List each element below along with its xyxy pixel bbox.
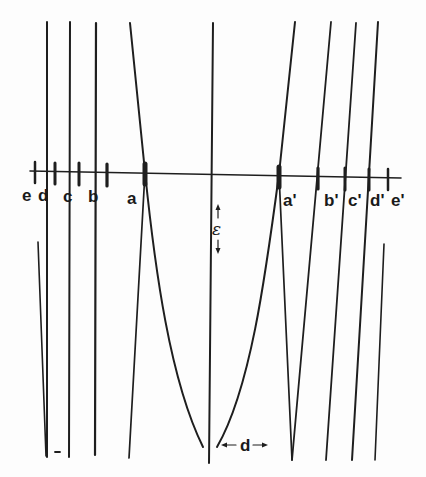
short-line-left <box>38 242 46 456</box>
d-gap-annotation: d <box>221 436 268 455</box>
diagram-svg: e d c b a a' b' c' d' e' ε d <box>0 0 426 477</box>
d-label: d <box>240 436 250 455</box>
diagram-canvas: e d c b a a' b' c' d' e' ε d <box>0 0 426 477</box>
line-a-prime-right-parabola <box>217 22 295 447</box>
label-c-prime: c' <box>348 191 362 210</box>
left-arrowhead-icon <box>221 443 227 448</box>
label-e-prime: e' <box>391 191 405 210</box>
right-arrowhead-icon <box>262 443 268 448</box>
label-a: a <box>127 189 137 208</box>
line-b-prime <box>292 22 331 460</box>
epsilon-gap-annotation: ε <box>212 204 221 254</box>
label-c: c <box>63 187 72 206</box>
line-b <box>95 23 96 455</box>
line-d-prime <box>352 22 378 460</box>
label-d-prime: d' <box>370 191 384 210</box>
label-e: e <box>22 186 31 205</box>
epsilon-label: ε <box>212 219 221 239</box>
label-a-prime: a' <box>283 191 297 210</box>
short-line-right <box>375 244 384 460</box>
label-b: b <box>88 187 98 206</box>
line-a-straight <box>129 172 145 458</box>
line-a-prime-straight <box>279 174 292 460</box>
up-arrowhead-icon <box>216 204 221 210</box>
label-b-prime: b' <box>324 191 338 210</box>
center-line <box>209 23 213 463</box>
line-c <box>69 22 70 457</box>
down-arrowhead-icon <box>216 248 221 254</box>
label-d: d <box>38 186 48 205</box>
line-c-prime <box>326 23 356 460</box>
